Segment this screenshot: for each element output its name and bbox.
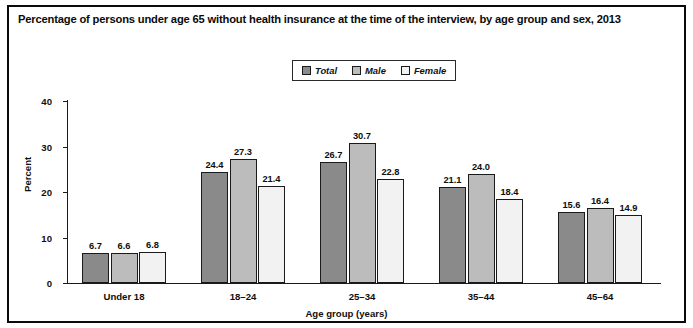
x-axis-title: Age group (years) xyxy=(0,308,693,319)
y-tick-label: 30 xyxy=(24,141,52,152)
bar-value-label: 6.8 xyxy=(146,240,159,250)
y-tick-label: 10 xyxy=(24,232,52,243)
bar xyxy=(496,199,523,283)
bar-value-label: 26.7 xyxy=(324,150,342,160)
bar-value-label: 30.7 xyxy=(353,131,371,141)
bar-value-label: 16.4 xyxy=(591,196,609,206)
x-tick-label: 25–34 xyxy=(349,291,376,302)
bar-value-label: 22.8 xyxy=(381,167,399,177)
bar-value-label: 27.3 xyxy=(234,147,252,157)
bar-group: 21.124.018.4 xyxy=(439,101,523,283)
bar xyxy=(230,159,257,283)
bar xyxy=(587,208,614,283)
bar-value-label: 6.6 xyxy=(118,241,131,251)
bar xyxy=(349,143,376,283)
y-tick-label: 20 xyxy=(24,187,52,198)
bar-value-label: 24.0 xyxy=(472,162,490,172)
legend-entry: Total xyxy=(302,65,337,76)
bar xyxy=(558,212,585,283)
bar-value-label: 6.7 xyxy=(89,241,102,251)
x-tick-label: 35–44 xyxy=(468,291,495,302)
y-tick-mark xyxy=(63,192,68,193)
y-tick-mark xyxy=(63,101,68,102)
legend-label: Female xyxy=(414,65,446,76)
y-tick-mark xyxy=(63,283,68,284)
bar xyxy=(258,186,285,283)
bar xyxy=(139,252,166,283)
bar xyxy=(111,253,138,283)
y-tick-mark xyxy=(63,147,68,148)
bar-value-label: 21.4 xyxy=(262,174,280,184)
bar-group: 6.76.66.8 xyxy=(82,101,166,283)
bar-group: 24.427.321.4 xyxy=(201,101,285,283)
x-tick-label: 18–24 xyxy=(230,291,257,302)
x-tick-label: 45–64 xyxy=(587,291,614,302)
chart-figure: Percentage of persons under age 65 witho… xyxy=(0,0,693,328)
y-tick-label: 40 xyxy=(24,96,52,107)
legend-entry: Female xyxy=(401,65,446,76)
bar xyxy=(468,174,495,283)
legend-swatch-icon xyxy=(302,66,311,75)
bar xyxy=(439,187,466,283)
y-tick-mark xyxy=(63,238,68,239)
legend-swatch-icon xyxy=(352,66,361,75)
x-tick-label: Under 18 xyxy=(103,291,144,302)
bar-group: 26.730.722.8 xyxy=(320,101,404,283)
plot-area: 0102030406.76.66.824.427.321.426.730.722… xyxy=(68,101,660,283)
bar-value-label: 24.4 xyxy=(205,160,223,170)
bar xyxy=(201,172,228,283)
y-tick-label: 0 xyxy=(24,278,52,289)
bar-value-label: 14.9 xyxy=(619,203,637,213)
bar-value-label: 18.4 xyxy=(500,187,518,197)
bar xyxy=(615,215,642,283)
legend-label: Total xyxy=(315,65,337,76)
bar-group: 15.616.414.9 xyxy=(558,101,642,283)
x-axis-line xyxy=(67,283,661,284)
legend-label: Male xyxy=(365,65,386,76)
bar-value-label: 15.6 xyxy=(562,200,580,210)
page-title: Percentage of persons under age 65 witho… xyxy=(18,13,668,26)
bar xyxy=(82,253,109,283)
chart-legend: TotalMaleFemale xyxy=(292,60,456,81)
legend-entry: Male xyxy=(352,65,386,76)
bar-value-label: 21.1 xyxy=(443,175,461,185)
bar xyxy=(377,179,404,283)
bar xyxy=(320,162,347,283)
legend-swatch-icon xyxy=(401,66,410,75)
